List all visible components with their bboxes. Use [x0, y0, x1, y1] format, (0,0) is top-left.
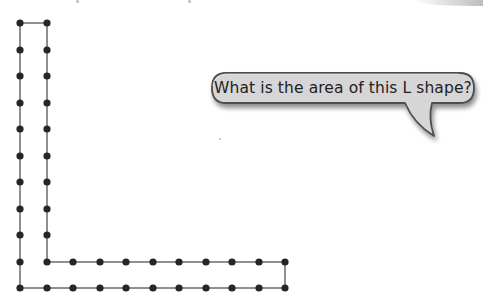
grid-dot: [16, 152, 23, 159]
grid-dot: [202, 258, 209, 265]
grid-dot: [281, 258, 288, 265]
grid-dot: [255, 258, 262, 265]
grid-dot: [96, 284, 103, 291]
grid-dots: [16, 19, 288, 291]
grid-dot: [43, 258, 50, 265]
grid-dot: [122, 284, 129, 291]
grid-dot: [281, 284, 288, 291]
grid-dot: [175, 258, 182, 265]
grid-dot: [255, 284, 262, 291]
grid-dot: [43, 284, 50, 291]
grid-dot: [69, 258, 76, 265]
speech-bubble-text: What is the area of this L shape?: [212, 73, 474, 103]
grid-dot: [16, 231, 23, 238]
grid-dot: [16, 99, 23, 106]
grid-dot: [16, 205, 23, 212]
grid-dot: [43, 19, 50, 26]
grid-dot: [69, 284, 76, 291]
diagram-stage: What is the area of this L shape?: [0, 0, 483, 305]
grid-dot: [16, 19, 23, 26]
l-shape-outline: [20, 23, 285, 288]
grid-dot: [43, 178, 50, 185]
grid-dot: [43, 152, 50, 159]
grid-dot: [16, 125, 23, 132]
grid-dot: [228, 258, 235, 265]
grid-dot: [122, 258, 129, 265]
grid-dot: [202, 284, 209, 291]
grid-dot: [43, 231, 50, 238]
grid-dot: [16, 46, 23, 53]
grid-dot: [43, 46, 50, 53]
grid-dot: [175, 284, 182, 291]
grid-dot: [43, 72, 50, 79]
grid-dot: [149, 284, 156, 291]
grid-dot: [43, 125, 50, 132]
grid-dot: [16, 258, 23, 265]
grid-dot: [228, 284, 235, 291]
grid-dot: [16, 284, 23, 291]
grid-dot: [16, 178, 23, 185]
grid-dot: [43, 99, 50, 106]
speck: [219, 138, 221, 140]
grid-dot: [16, 72, 23, 79]
grid-dot: [96, 258, 103, 265]
grid-dot: [43, 205, 50, 212]
grid-dot: [149, 258, 156, 265]
l-shape-diagram: [0, 0, 483, 305]
